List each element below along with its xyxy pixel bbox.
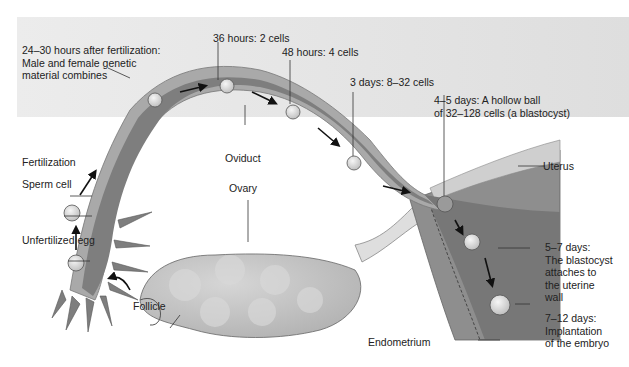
label-ovary: Ovary — [229, 182, 257, 195]
label-oviduct: Oviduct — [225, 152, 261, 165]
label-unfertilized-egg: Unfertilized egg — [22, 234, 95, 247]
label-36-hours: 36 hours: 2 cells — [213, 32, 289, 45]
label-7-12-days: 7–12 days: Implantation of the embryo — [545, 312, 609, 350]
label-5-7-days: 5–7 days: The blastocyst attaches to the… — [545, 241, 613, 304]
label-sperm-cell: Sperm cell — [22, 178, 72, 191]
label-follicle: Follicle — [133, 300, 166, 313]
ovary — [140, 254, 361, 338]
ovarian-ligament — [355, 205, 420, 262]
label-24-30-hours: 24–30 hours after fertilization: Male an… — [22, 44, 160, 82]
label-3-days: 3 days: 8–32 cells — [350, 76, 434, 89]
label-48-hours: 48 hours: 4 cells — [282, 46, 358, 59]
label-endometrium: Endometrium — [368, 336, 430, 349]
label-fertilization: Fertilization — [22, 156, 76, 169]
label-uterus: Uterus — [543, 160, 574, 173]
label-4-5-days: 4–5 days: A hollow ball of 32–128 cells … — [434, 94, 570, 119]
diagram-canvas: 24–30 hours after fertilization: Male an… — [0, 0, 629, 367]
